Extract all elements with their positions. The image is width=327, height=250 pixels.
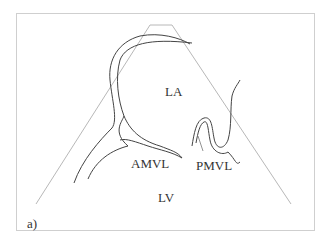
label-amvl: AMVL <box>131 157 169 170</box>
echo-sector-diagram <box>0 0 327 250</box>
pmvl-leader-line <box>198 136 203 151</box>
pmvl-leaflet <box>192 80 240 147</box>
label-la: LA <box>165 85 182 98</box>
sector-outline <box>36 25 291 204</box>
label-pmvl: PMVL <box>196 159 232 172</box>
label-lv: LV <box>158 191 174 204</box>
amvl-leaflet <box>120 116 182 158</box>
panel-label: a) <box>27 217 37 230</box>
